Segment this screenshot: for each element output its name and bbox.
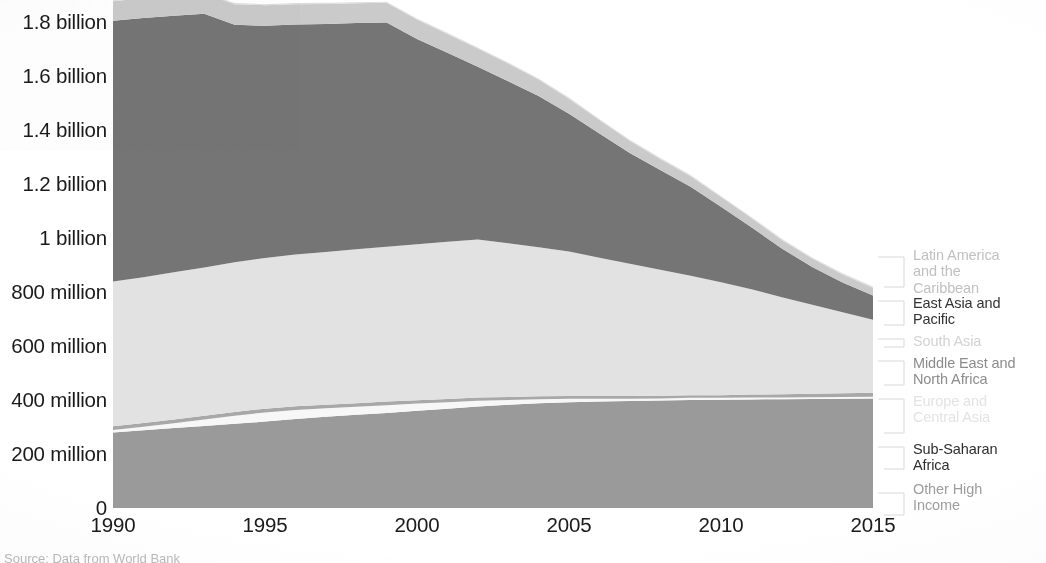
legend-item-east-asia-and-pacific[interactable]: East Asia and Pacific [913,295,1000,328]
y-axis-tick-label: 1 billion [39,226,107,250]
legend-item-middle-east-and-north-africa[interactable]: Middle East and North Africa [913,355,1015,388]
legend-connector [878,399,904,433]
y-axis-tick-label: 1.8 billion [23,10,107,34]
x-axis-tick-label: 2005 [547,513,592,537]
plot-area [113,0,873,510]
legend-connector [878,447,904,469]
y-axis-tick-label: 600 million [11,334,107,358]
legend-item-latin-america-and-the-caribbean[interactable]: Latin America and the Caribbean [913,247,1000,296]
area-series-group [113,0,873,510]
legend-connector [878,339,904,347]
legend-item-other-high-income[interactable]: Other High Income [913,481,982,514]
legend-connector [878,493,904,515]
x-axis-tick-label: 1995 [243,513,288,537]
y-axis-tick-label: 200 million [11,442,107,466]
x-axis-tick-label: 1990 [91,513,136,537]
y-axis-tick-label: 800 million [11,280,107,304]
x-axis-tick-label: 2000 [395,513,440,537]
legend-connector [878,257,904,287]
legend-connector [878,361,904,385]
legend-item-europe-and-central-asia[interactable]: Europe and Central Asia [913,393,990,426]
source-note: Source: Data from World Bank [4,551,424,563]
stacked-area-chart-figure: 1.8 billion1.6 billion1.4 billion1.2 bil… [0,0,1046,563]
legend-item-south-asia[interactable]: South Asia [913,333,981,349]
x-axis-tick-label: 2010 [699,513,744,537]
legend: Latin America and the CaribbeanEast Asia… [878,243,1046,533]
y-axis-tick-label: 1.2 billion [23,172,107,196]
y-axis: 1.8 billion1.6 billion1.4 billion1.2 bil… [0,0,107,520]
legend-connector-brackets [878,243,918,533]
y-axis-tick-label: 400 million [11,388,107,412]
legend-connector [878,301,904,325]
legend-item-sub-saharan-africa[interactable]: Sub-Saharan Africa [913,441,997,474]
y-axis-tick-label: 1.6 billion [23,64,107,88]
y-axis-tick-label: 1.4 billion [23,118,107,142]
